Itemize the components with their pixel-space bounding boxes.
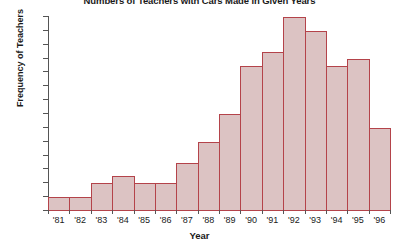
x-axis-label: Year [0,230,399,241]
x-tick-mark [240,210,241,214]
bar [326,66,348,212]
histogram-figure: Numbers of Teachers with Cars Made in Gi… [0,0,399,246]
x-tick-mark [176,210,177,214]
x-tick-mark [198,210,199,214]
bar [219,114,241,211]
x-tick-mark [48,210,49,214]
bar [240,66,262,212]
bar [91,183,113,211]
x-tick-mark [262,210,263,214]
bar [155,183,177,211]
bar [48,197,70,211]
bar [176,163,198,212]
x-tick-mark [91,210,92,214]
x-tick-mark [219,210,220,214]
x-tick-label: '96 [364,215,394,225]
bar [283,17,305,211]
x-tick-mark [155,210,156,214]
x-tick-mark [347,210,348,214]
bar [262,52,284,211]
bar [369,128,391,211]
bar [198,142,220,211]
bar [69,197,91,211]
bar [347,59,369,211]
bar [134,183,156,211]
bar [112,176,134,211]
page-title: Numbers of Teachers with Cars Made in Gi… [0,0,399,6]
x-tick-mark [283,210,284,214]
x-tick-mark [69,210,70,214]
x-tick-mark [326,210,327,214]
y-axis-label: Frequency of Teachers [15,0,25,128]
x-tick-mark [112,210,113,214]
x-tick-mark [305,210,306,214]
x-tick-mark [369,210,370,214]
x-tick-mark [390,210,391,214]
bars-container [48,16,390,211]
x-tick-mark [134,210,135,214]
bar [305,31,327,211]
